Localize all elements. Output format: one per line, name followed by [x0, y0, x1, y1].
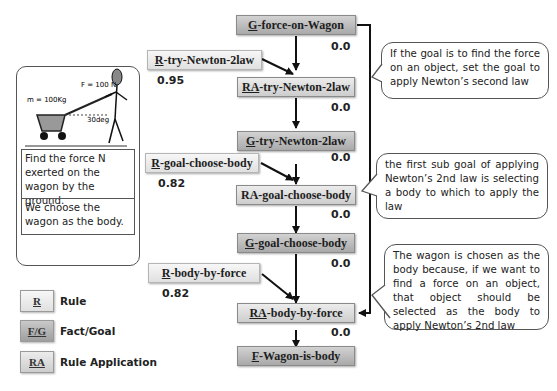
legend-rule-application-label: Rule Application — [60, 356, 157, 368]
legend-fact-goal-swatch: F/G — [20, 320, 54, 342]
legend-fact-goal-label: Fact/Goal — [60, 325, 115, 337]
legend-rule-application-swatch: RA — [20, 351, 54, 373]
legend-rule-label: Rule — [60, 295, 86, 307]
legend-rule-swatch: R — [20, 290, 54, 312]
